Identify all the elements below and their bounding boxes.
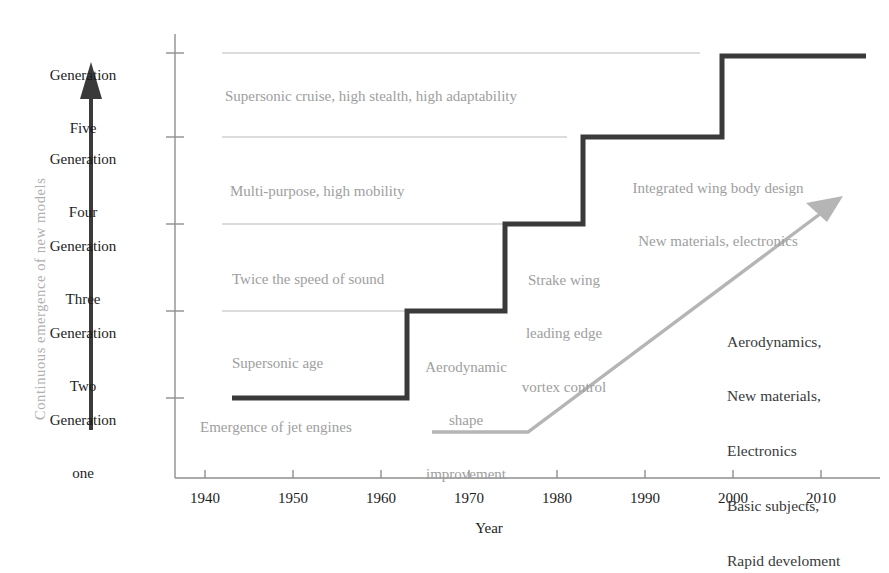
annotation-line-2: New materials, electronics	[589, 233, 847, 251]
annotation-generation-three: Twice the speed of sound	[232, 271, 384, 289]
x-tick-label-1960: 1960	[351, 490, 411, 508]
x-tick-label-1980: 1980	[527, 490, 587, 508]
y-tick-line1: Generation	[8, 412, 158, 430]
x-tick-label-1940: 1940	[175, 490, 235, 508]
annotation-line-1: Integrated wing body design	[589, 180, 847, 198]
annotation-line-2: New materials,	[727, 387, 840, 405]
annotation-integrated-wing-body: Integrated wing body design New material…	[589, 145, 847, 287]
annotation-generation-five: Supersonic cruise, high stealth, high ad…	[225, 88, 517, 106]
annotation-line-3: Electronics	[727, 442, 840, 460]
y-tick-line1: Generation	[8, 67, 158, 85]
x-axis-title: Year	[429, 520, 549, 538]
annotation-line-2: leading edge	[508, 325, 620, 343]
y-tick-line1: Generation	[8, 151, 158, 169]
annotation-technology-drivers: Aerodynamics, New materials, Electronics…	[727, 296, 840, 573]
y-tick-line1: Generation	[8, 325, 158, 343]
annotation-line-5: Rapid develoment	[727, 552, 840, 570]
y-tick-label-generation-one: Generation one	[8, 377, 158, 519]
annotation-line-2: shape	[410, 412, 522, 430]
annotation-line-1: Aerodynamics,	[727, 333, 840, 351]
annotation-line-1: Aerodynamic	[410, 359, 522, 377]
y-tick-line2: one	[8, 465, 158, 483]
annotation-generation-four: Multi-purpose, high mobility	[230, 183, 405, 201]
x-tick-label-1990: 1990	[615, 490, 675, 508]
y-tick-line1: Generation	[8, 238, 158, 256]
annotation-aerodynamic-shape: Aerodynamic shape improvement	[410, 324, 522, 519]
x-tick-label-1950: 1950	[263, 490, 323, 508]
annotation-line-4: Basic subjects,	[727, 497, 840, 515]
annotation-generation-two: Supersonic age	[232, 355, 323, 373]
annotation-jet-engines: Emergence of jet engines	[200, 419, 352, 437]
annotation-line-3: improvement	[410, 466, 522, 484]
annotation-line-3: vortex control	[508, 379, 620, 397]
